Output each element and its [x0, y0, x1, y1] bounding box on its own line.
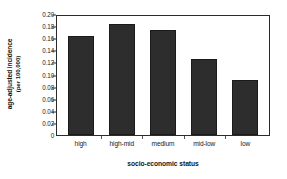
y-tick-label: 0.10 [26, 72, 54, 78]
bar-high[interactable] [68, 36, 94, 135]
bar-mid-low[interactable] [191, 59, 217, 135]
bar-medium[interactable] [150, 30, 176, 135]
bar-series [57, 16, 269, 135]
y-tick-label: 0.08 [26, 84, 54, 90]
bar-slot [102, 16, 143, 135]
y-axis-title-line2: (per 100,000) [14, 56, 21, 93]
x-tick-label-mid-low: mid-low [184, 139, 225, 151]
y-tick-label: 0.06 [26, 97, 54, 103]
x-tick-label-low: low [225, 139, 266, 151]
plot-area [56, 15, 270, 136]
y-axis-title: age-adjusted incidence (per 100,000) [2, 12, 26, 136]
bar-chart-figure: age-adjusted incidence (per 100,000) 00.… [0, 0, 287, 179]
x-tick-label-high: high [60, 139, 101, 151]
y-axis-title-line1: age-adjusted incidence [6, 39, 13, 110]
bar-high-mid[interactable] [109, 24, 135, 135]
bar-slot [61, 16, 102, 135]
y-tick-label: 0.04 [26, 109, 54, 115]
y-tick-label: 0.20 [26, 12, 54, 18]
y-tick-label: 0 [26, 133, 54, 139]
y-tick-label: 0.14 [26, 48, 54, 54]
y-tick-label: 0.12 [26, 60, 54, 66]
x-tick-label-high-mid: high-mid [101, 139, 142, 151]
bar-slot [224, 16, 265, 135]
y-tick-label: 0.16 [26, 36, 54, 42]
bar-slot [183, 16, 224, 135]
x-axis-tick-labels: highhigh-midmediummid-lowlow [56, 139, 270, 151]
y-tick-label: 0.18 [26, 24, 54, 30]
x-tick-label-medium: medium [142, 139, 183, 151]
bar-slot [143, 16, 184, 135]
bar-low[interactable] [232, 80, 258, 135]
y-tick-label: 0.02 [26, 121, 54, 127]
x-axis-title: socio-economic status [56, 160, 270, 167]
